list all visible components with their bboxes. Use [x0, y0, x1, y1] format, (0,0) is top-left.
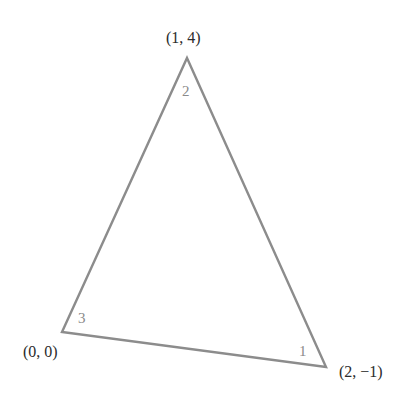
- angle-label-2: 2: [182, 84, 190, 99]
- vertex-label-bottom-left: (0, 0): [23, 344, 58, 360]
- triangle-shape: [62, 58, 326, 367]
- vertex-label-top: (1, 4): [166, 30, 201, 46]
- triangle-diagram: [0, 0, 411, 402]
- angle-label-1: 1: [299, 344, 307, 359]
- angle-label-3: 3: [78, 311, 86, 326]
- vertex-label-bottom-right: (2, −1): [339, 364, 383, 380]
